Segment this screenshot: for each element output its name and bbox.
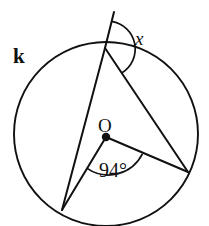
- inscribed-angle-arc: [112, 21, 136, 73]
- unknown-angle-label: x: [135, 29, 143, 48]
- geometry-drawing: [0, 0, 209, 226]
- center-point-label: O: [98, 116, 112, 135]
- circle-name-label: k: [13, 46, 25, 67]
- circle-geometry-figure: k O x 94°: [0, 0, 209, 226]
- central-angle-measure-label: 94°: [99, 160, 127, 180]
